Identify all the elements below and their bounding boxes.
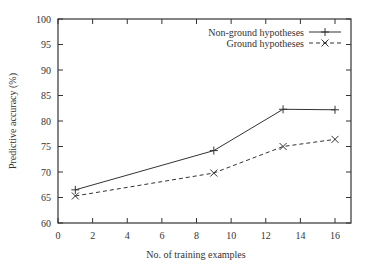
y-tick-label: 65: [41, 192, 51, 203]
series-line: [75, 139, 335, 196]
y-tick-label: 80: [41, 116, 51, 127]
series-ground: [72, 136, 339, 200]
legend: Non-ground hypothesesGround hypotheses: [208, 27, 341, 49]
y-tick-label: 95: [41, 39, 51, 50]
y-tick-label: 70: [41, 167, 51, 178]
legend-sample: [309, 28, 341, 36]
x-tick-label: 12: [261, 230, 271, 241]
y-tick-label: 90: [41, 65, 51, 76]
x-tick-label: 4: [125, 230, 130, 241]
x-tick-label: 10: [226, 230, 236, 241]
y-tick-label: 85: [41, 90, 51, 101]
x-tick-label: 6: [159, 230, 164, 241]
y-tick-label: 60: [41, 218, 51, 229]
x-tick-label: 14: [295, 230, 305, 241]
y-tick-label: 100: [36, 14, 51, 25]
data-series: [71, 105, 339, 199]
legend-label: Non-ground hypotheses: [208, 27, 304, 38]
x-tick-label: 16: [330, 230, 340, 241]
legend-sample: [309, 40, 341, 47]
x-tick-label: 8: [194, 230, 199, 241]
y-axis-label: Predictive accuracy (%): [7, 73, 19, 169]
legend-label: Ground hypotheses: [227, 38, 305, 49]
x-tick-label: 2: [90, 230, 95, 241]
x-axis-label: No. of training examples: [146, 249, 246, 260]
x-tick-label: 0: [56, 230, 61, 241]
plot-frame: [58, 19, 351, 223]
series-non-ground: [71, 105, 339, 194]
y-tick-label: 75: [41, 141, 51, 152]
line-chart: 6065707580859095100 0246810121416 Non-gr…: [0, 0, 367, 269]
series-line: [75, 109, 335, 190]
plot-border: [58, 19, 351, 223]
x-axis-ticks: 0246810121416: [56, 19, 341, 241]
